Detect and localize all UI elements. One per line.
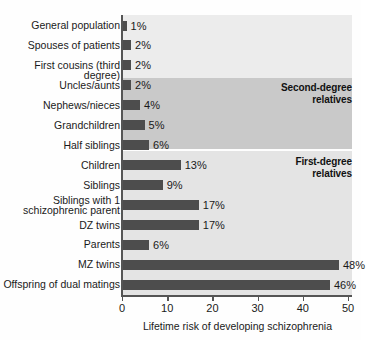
category-label: Offspring of dual matings xyxy=(0,279,120,290)
category-label: MZ twins xyxy=(0,259,120,270)
bar xyxy=(122,280,330,290)
bar-row: DZ twins17% xyxy=(0,216,361,235)
bar-value-label: 6% xyxy=(153,139,169,151)
category-label: Nephews/nieces xyxy=(0,100,120,111)
x-axis-tick xyxy=(122,296,123,301)
x-axis-title: Lifetime risk of developing schizophreni… xyxy=(122,320,353,332)
bar xyxy=(122,21,127,31)
category-label: DZ twins xyxy=(0,220,120,231)
x-axis-line xyxy=(121,295,352,297)
category-label: Children xyxy=(0,160,120,171)
bar-value-label: 48% xyxy=(343,259,365,271)
category-label: Spouses of patients xyxy=(0,40,120,51)
bar-row: General population1% xyxy=(0,16,361,35)
x-axis-tick-label: 0 xyxy=(102,302,142,314)
bar-value-label: 17% xyxy=(203,219,225,231)
x-axis-tick xyxy=(258,296,259,301)
x-axis-tick xyxy=(348,296,349,301)
bar-row: First cousins (third degree)2% xyxy=(0,56,361,75)
bar xyxy=(122,120,145,130)
y-axis-line xyxy=(121,15,123,296)
category-label: Half siblings xyxy=(0,140,120,151)
bar xyxy=(122,260,339,270)
bar xyxy=(122,40,131,50)
bar-value-label: 4% xyxy=(144,99,160,111)
x-axis-tick-label: 20 xyxy=(192,302,232,314)
bar-value-label: 2% xyxy=(135,59,151,71)
x-axis-tick-label: 40 xyxy=(283,302,323,314)
bar xyxy=(122,220,199,230)
bar-value-label: 17% xyxy=(203,199,225,211)
bar-row: Spouses of patients2% xyxy=(0,36,361,55)
category-label: Siblings xyxy=(0,180,120,191)
bar-value-label: 6% xyxy=(153,239,169,251)
bar-row: MZ twins48% xyxy=(0,255,361,274)
bar-value-label: 46% xyxy=(334,279,356,291)
x-axis-tick xyxy=(167,296,168,301)
bar-value-label: 1% xyxy=(131,20,147,32)
category-label: Uncles/aunts xyxy=(0,80,120,91)
category-label: Grandchildren xyxy=(0,120,120,131)
bar xyxy=(122,60,131,70)
bar-row: Children13% xyxy=(0,156,361,175)
bar-value-label: 2% xyxy=(135,39,151,51)
bar-value-label: 2% xyxy=(135,79,151,91)
bar xyxy=(122,240,149,250)
bar-row: Grandchildren5% xyxy=(0,116,361,135)
category-label: Siblings with 1 schizophrenic parent xyxy=(0,195,120,216)
bar-row: Half siblings6% xyxy=(0,136,361,155)
bar xyxy=(122,140,149,150)
x-axis-tick-label: 30 xyxy=(238,302,278,314)
x-axis-tick-label: 50 xyxy=(328,302,368,314)
bar-row: Siblings9% xyxy=(0,176,361,195)
bar-row: Siblings with 1 schizophrenic parent17% xyxy=(0,196,361,215)
bar-row: Offspring of dual matings46% xyxy=(0,275,361,294)
bar-row: Uncles/aunts2% xyxy=(0,76,361,95)
category-label: Parents xyxy=(0,239,120,250)
bar xyxy=(122,160,181,170)
bar-row: Nephews/nieces4% xyxy=(0,96,361,115)
bar-value-label: 13% xyxy=(185,159,207,171)
x-axis-tick xyxy=(212,296,213,301)
bar xyxy=(122,80,131,90)
bar xyxy=(122,180,163,190)
x-axis-tick-label: 10 xyxy=(147,302,187,314)
bar-value-label: 5% xyxy=(149,119,165,131)
bar xyxy=(122,100,140,110)
bar-row: Parents6% xyxy=(0,235,361,254)
bar xyxy=(122,200,199,210)
x-axis-tick xyxy=(303,296,304,301)
bar-value-label: 9% xyxy=(167,179,183,191)
category-label: General population xyxy=(0,20,120,31)
